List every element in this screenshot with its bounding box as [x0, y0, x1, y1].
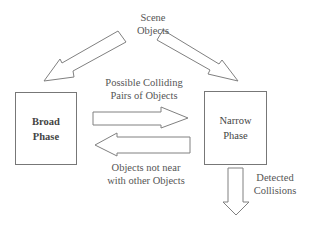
- narrow-phase-label: Narrow Phase: [219, 113, 251, 143]
- broad-to-narrow-arrow: [93, 107, 188, 128]
- broad-phase-label: Broad Phase: [32, 114, 60, 144]
- scene-to-broad-arrow: [44, 31, 126, 81]
- narrow-phase-node: Narrow Phase: [204, 91, 267, 165]
- possible-pairs-label: Possible Colliding Pairs of Objects: [88, 77, 200, 102]
- scene-objects-label: Scene Objects: [118, 12, 188, 37]
- scene-to-narrow-arrow: [157, 30, 238, 81]
- detected-collisions-label: Detected Collisions: [247, 172, 303, 197]
- detected-collisions-arrow: [223, 168, 249, 215]
- objects-not-near-label: Objects not near with other Objects: [94, 162, 198, 187]
- narrow-to-broad-arrow: [95, 133, 190, 156]
- broad-phase-node: Broad Phase: [15, 92, 77, 165]
